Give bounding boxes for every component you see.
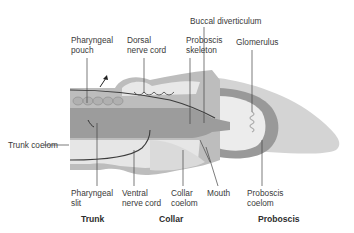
region-trunk: Trunk [81,214,104,224]
label-pharyngeal-pouch: Pharyngeal pouch [71,35,113,55]
label-collar-coelom: Collar coelom [171,188,198,208]
label-mouth: Mouth [207,188,230,198]
label-ventral-nerve-cord: Ventral nerve cord [122,188,161,208]
region-proboscis: Proboscis [258,214,300,224]
label-glomerulus: Glomerulus [236,37,278,47]
label-dorsal-nerve-cord: Dorsal nerve cord [127,35,166,55]
label-proboscis-coelom: Proboscis coelom [247,188,283,208]
acorn-worm-diagram: Pharyngeal pouch Dorsal nerve cord Bucca… [0,0,354,233]
label-pharyngeal-slit: Pharyngeal slit [71,188,113,208]
pharyngeal-pouches [73,97,123,105]
label-buccal-diverticulum: Buccal diverticulum [190,16,261,26]
label-trunk-coelom: Trunk coelom [8,140,58,150]
label-proboscis-skeleton: Proboscis skeleton [186,35,222,55]
region-collar: Collar [159,214,183,224]
